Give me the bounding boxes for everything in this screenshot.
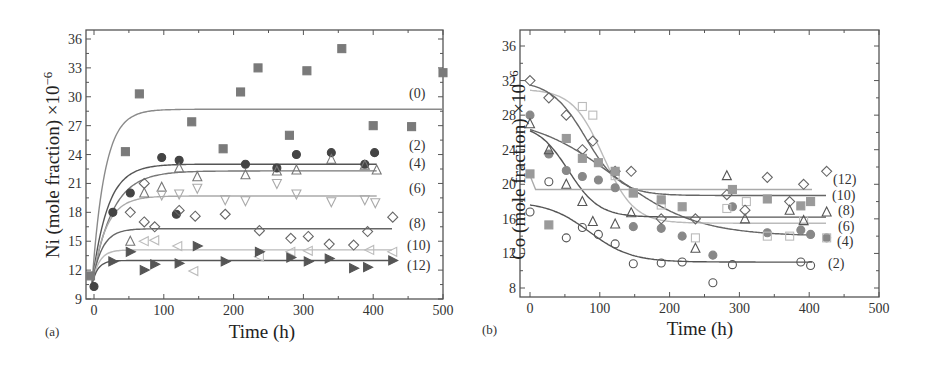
fit-curve-4 [530, 130, 812, 236]
fit-curve-10 [92, 250, 392, 285]
square-filled-marker-icon [545, 221, 553, 229]
y-tick-label: 36 [502, 39, 516, 54]
x-tick-label: 400 [363, 303, 384, 318]
triangle-up-marker-icon [562, 179, 571, 188]
triangle-down-marker-icon [157, 191, 166, 200]
panel-b-x-axis-title: Time (h) [667, 318, 733, 340]
triangle-left-marker-icon [139, 237, 148, 246]
square-marker-icon [188, 118, 196, 126]
square-filled-marker-icon [578, 154, 586, 162]
circle-marker-icon [292, 151, 300, 159]
circle-marker-icon [611, 240, 619, 248]
curve-label: (4) [837, 234, 854, 250]
fit-curve-4 [92, 171, 377, 285]
square-filled-marker-icon [678, 203, 686, 211]
y-tick-label: 30 [68, 90, 82, 105]
curve-label: (10) [407, 238, 431, 254]
y-tick-label: 33 [68, 61, 82, 76]
y-tick-label: 24 [68, 148, 82, 163]
diamond-marker-icon [626, 166, 636, 176]
curve-label: (8) [409, 216, 426, 232]
triangle-down-marker-icon [292, 190, 301, 199]
circle-marker-icon [90, 282, 98, 290]
triangle-down-marker-icon [360, 196, 369, 205]
triangle-down-marker-icon [193, 184, 202, 193]
series-10 [525, 76, 832, 224]
x-tick-label: 0 [527, 301, 534, 316]
triangle-up-marker-icon [140, 188, 149, 197]
diamond-marker-icon [286, 233, 296, 243]
triangle-left-marker-icon [173, 242, 182, 251]
x-tick-label: 0 [91, 303, 98, 318]
circle-marker-icon [109, 208, 117, 216]
square-open-marker-icon [691, 234, 699, 242]
square-marker-icon [135, 90, 143, 98]
diamond-marker-icon [799, 179, 809, 189]
fit-curve-2 [92, 164, 377, 284]
series-0 [87, 45, 447, 280]
circle-filled-marker-icon [578, 173, 586, 181]
panel-b-label: (b) [482, 322, 497, 337]
circle-filled-marker-icon [823, 234, 831, 242]
square-marker-icon [303, 67, 311, 75]
triangle-right-marker-icon [140, 266, 149, 275]
curve-label: (0) [409, 86, 426, 102]
curve-label: (8) [838, 203, 855, 219]
curve-label: (6) [838, 219, 855, 235]
y-tick-label: 9 [75, 292, 82, 307]
y-tick-label: 21 [68, 176, 82, 191]
curve-label: (12) [407, 258, 431, 274]
square-marker-icon [87, 272, 95, 280]
plot-frame [520, 30, 879, 297]
series-12 [526, 134, 815, 228]
triangle-up-marker-icon [822, 207, 831, 216]
triangle-right-marker-icon [126, 247, 135, 256]
circle-filled-marker-icon [611, 184, 619, 192]
triangle-up-marker-icon [126, 236, 135, 245]
triangle-down-marker-icon [175, 190, 184, 199]
diamond-marker-icon [303, 231, 313, 241]
x-tick-label: 100 [153, 303, 174, 318]
circle-marker-icon [172, 210, 180, 218]
circle-filled-marker-icon [629, 223, 637, 231]
series-2 [90, 149, 379, 291]
triangle-right-marker-icon [304, 257, 313, 266]
curve-label: (2) [409, 138, 426, 154]
square-filled-marker-icon [797, 202, 805, 210]
square-marker-icon [121, 148, 129, 156]
square-open-marker-icon [589, 111, 597, 119]
x-tick-label: 100 [589, 301, 610, 316]
circle-marker-icon [545, 178, 553, 186]
triangle-down-marker-icon [241, 197, 250, 206]
square-open-marker-icon [742, 198, 750, 206]
triangle-right-marker-icon [389, 256, 398, 265]
y-tick-label: 18 [68, 205, 82, 220]
fit-curve-8 [92, 229, 392, 285]
y-tick-label: 36 [68, 32, 82, 47]
series-10 [139, 236, 396, 276]
x-tick-label: 300 [729, 301, 750, 316]
diamond-marker-icon [220, 209, 230, 219]
triangle-left-marker-icon [150, 236, 159, 245]
triangle-up-marker-icon [588, 216, 597, 225]
x-tick-label: 200 [223, 303, 244, 318]
y-tick-label: 12 [68, 263, 82, 278]
triangle-right-marker-icon [350, 264, 359, 273]
square-marker-icon [408, 123, 416, 131]
panel-a-ni-chart: 01002003004005009121518212427303336(0)(2… [68, 30, 454, 318]
square-marker-icon [338, 45, 346, 53]
series-12 [109, 242, 398, 275]
series-4 [126, 154, 381, 245]
series-6 [157, 179, 380, 207]
curve-label: (4) [409, 156, 426, 172]
circle-filled-marker-icon [594, 176, 602, 184]
curve-label: (6) [409, 181, 426, 197]
diamond-marker-icon [254, 226, 264, 236]
series-8 [125, 178, 397, 250]
square-filled-marker-icon [657, 196, 665, 204]
y-tick-label: 27 [68, 119, 82, 134]
circle-filled-marker-icon [709, 251, 717, 259]
square-open-marker-icon [786, 232, 794, 240]
circle-filled-marker-icon [657, 224, 665, 232]
curve-label: (12) [833, 172, 857, 188]
